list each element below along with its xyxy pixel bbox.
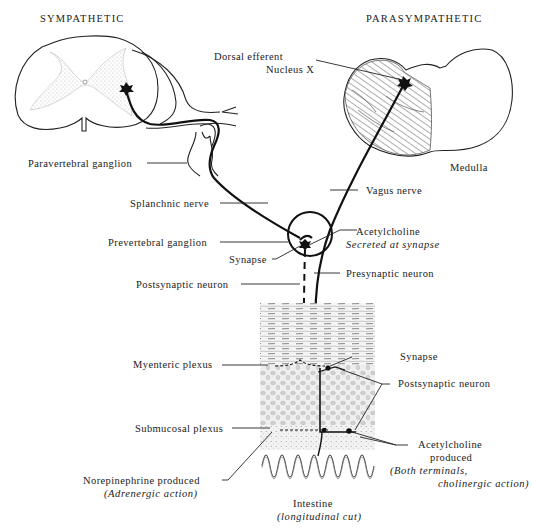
vagus-nerve-label: Vagus nerve [366, 185, 422, 196]
paravertebral-ganglion-label: Paravertebral ganglion [28, 158, 132, 169]
postsynaptic-neuron-left-label: Postsynaptic neuron [136, 279, 229, 290]
produced-label: produced [430, 452, 473, 463]
splanchnic-nerve-label: Splanchnic nerve [130, 198, 209, 209]
adrenergic-action-label: (Adrenergic action) [104, 488, 198, 500]
secreted-at-synapse-label: Secreted at synapse [346, 239, 440, 250]
intestine-label: Intestine [293, 498, 333, 509]
presynaptic-neuron-label: Presynaptic neuron [346, 268, 434, 279]
longitudinal-cut-label: (longitudinal cut) [277, 511, 362, 523]
gray-matter [30, 48, 132, 116]
intestine-section [260, 303, 375, 479]
nucleus-x-label: Nucleus X [266, 64, 314, 75]
postsynaptic-neuron-right-label: Postsynaptic neuron [398, 378, 491, 389]
acetylcholine-label: Acetylcholine [356, 226, 420, 237]
central-canal [83, 80, 87, 84]
cholinergic-action-label: cholinergic action) [438, 478, 529, 490]
sympathetic-header: SYMPATHETIC [40, 13, 125, 24]
acetylcholine-produced-label: Acetylcholine [418, 439, 482, 450]
synapse-lower-label: Synapse [400, 351, 438, 362]
medulla-shaded-region [345, 60, 432, 155]
dorsal-efferent-label: Dorsal efferent [214, 51, 283, 62]
autonomic-nervous-system-diagram: SYMPATHETIC PARASYMPATHETIC [0, 0, 533, 532]
medulla-label: Medulla [450, 162, 488, 173]
myenteric-plexus-label: Myenteric plexus [133, 359, 213, 370]
synapse-terminal [300, 236, 312, 240]
synapse-upper-label: Synapse [229, 254, 267, 265]
submucosal-synapse-knob [346, 428, 352, 434]
both-terminals-label: (Both terminals, [390, 465, 468, 477]
submucosal-plexus-label: Submucosal plexus [135, 423, 223, 434]
intestinal-villi [262, 455, 374, 477]
myenteric-synapse-knob [325, 365, 330, 370]
prevertebral-ganglion-label: Prevertebral ganglion [108, 237, 207, 248]
norepinephrine-produced-label: Norepinephrine produced [83, 475, 200, 486]
parasympathetic-header: PARASYMPATHETIC [366, 13, 482, 24]
